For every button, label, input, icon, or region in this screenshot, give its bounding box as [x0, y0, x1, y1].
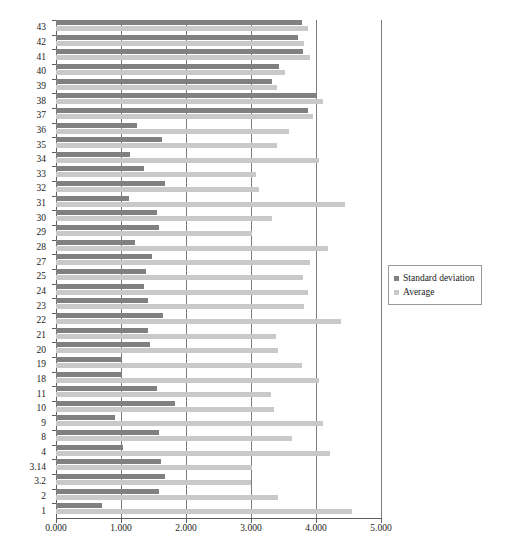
y-axis-tick	[52, 240, 56, 241]
x-axis-tick	[121, 518, 122, 523]
y-axis-tick-label: 9	[41, 418, 46, 428]
bar-standard-deviation	[56, 181, 165, 186]
bar-row	[56, 357, 381, 372]
bar-row	[56, 49, 381, 64]
bar-average	[56, 407, 274, 412]
bar-standard-deviation	[56, 49, 303, 54]
y-axis-tick-label: 36	[37, 125, 47, 135]
bar-row	[56, 503, 381, 518]
bar-chart: 4342414039383736353433323130292827252423…	[0, 0, 513, 558]
bar-average	[56, 187, 259, 192]
x-axis-labels: 0.0001.0002.0003.0004.0005.000	[0, 523, 513, 543]
bar-row	[56, 298, 381, 313]
bar-standard-deviation	[56, 137, 162, 142]
bar-standard-deviation	[56, 210, 157, 215]
bar-standard-deviation	[56, 459, 161, 464]
y-axis-tick	[52, 342, 56, 343]
bar-average	[56, 231, 252, 236]
y-axis-tick	[52, 225, 56, 226]
bar-row	[56, 254, 381, 269]
x-axis-tick-label: 5.000	[370, 523, 391, 533]
y-axis-tick-label: 37	[37, 110, 47, 120]
bar-standard-deviation	[56, 386, 157, 391]
bar-standard-deviation	[56, 430, 159, 435]
bar-standard-deviation	[56, 489, 159, 494]
bar-standard-deviation	[56, 328, 148, 333]
y-axis-tick	[52, 210, 56, 211]
bar-average	[56, 451, 330, 456]
y-axis-tick	[52, 313, 56, 314]
bar-average	[56, 378, 319, 383]
bar-average	[56, 392, 271, 397]
y-axis-tick-label: 3.2	[34, 476, 46, 486]
y-axis-tick	[52, 20, 56, 21]
y-axis-tick	[52, 49, 56, 50]
bar-row	[56, 210, 381, 225]
plot-area	[56, 20, 381, 518]
bar-row	[56, 20, 381, 35]
bar-row	[56, 328, 381, 343]
x-axis-tick	[316, 518, 317, 523]
y-axis-tick-label: 18	[37, 374, 47, 384]
bar-average	[56, 246, 328, 251]
x-axis-tick	[381, 518, 382, 523]
bar-average	[56, 114, 313, 119]
y-axis-tick	[52, 328, 56, 329]
bar-average	[56, 158, 319, 163]
x-axis-tick-label: 2.000	[175, 523, 196, 533]
y-axis-tick	[52, 108, 56, 109]
y-axis-tick-label: 20	[37, 345, 47, 355]
y-axis-tick	[52, 372, 56, 373]
legend-item: Average	[394, 285, 475, 299]
y-axis-tick	[52, 35, 56, 36]
y-axis-tick	[52, 123, 56, 124]
bar-standard-deviation	[56, 108, 308, 113]
bar-average	[56, 99, 323, 104]
bar-row	[56, 152, 381, 167]
y-axis-tick-label: 3.14	[29, 462, 46, 472]
x-axis-tick	[56, 518, 57, 523]
y-axis-tick-label: 4	[41, 447, 46, 457]
bar-standard-deviation	[56, 64, 279, 69]
bar-row	[56, 342, 381, 357]
bar-standard-deviation	[56, 152, 130, 157]
legend: Standard deviation Average	[388, 265, 482, 305]
bar-row	[56, 430, 381, 445]
bar-row	[56, 196, 381, 211]
bar-standard-deviation	[56, 269, 146, 274]
bar-standard-deviation	[56, 298, 148, 303]
y-axis-tick	[52, 357, 56, 358]
bar-row	[56, 35, 381, 50]
x-axis-tick	[251, 518, 252, 523]
bar-average	[56, 436, 292, 441]
y-axis-tick	[52, 415, 56, 416]
y-axis-tick	[52, 269, 56, 270]
x-axis-tick	[186, 518, 187, 523]
bar-row	[56, 64, 381, 79]
bar-standard-deviation	[56, 401, 175, 406]
bar-standard-deviation	[56, 357, 121, 362]
bar-row	[56, 181, 381, 196]
bar-standard-deviation	[56, 342, 150, 347]
y-axis-tick-label: 35	[37, 140, 47, 150]
legend-label-standard-deviation: Standard deviation	[403, 272, 475, 284]
bar-row	[56, 386, 381, 401]
y-axis-tick-label: 25	[37, 271, 47, 281]
legend-swatch-average	[394, 290, 399, 295]
y-axis-tick-label: 42	[37, 37, 47, 47]
y-axis-tick-label: 30	[37, 213, 47, 223]
bar-average	[56, 509, 352, 514]
y-axis-tick	[52, 503, 56, 504]
bar-standard-deviation	[56, 313, 163, 318]
bar-standard-deviation	[56, 240, 135, 245]
y-axis-tick-label: 8	[41, 432, 46, 442]
y-axis-tick-label: 22	[37, 315, 47, 325]
y-axis-tick	[52, 254, 56, 255]
gridline	[381, 20, 382, 518]
bar-average	[56, 363, 302, 368]
legend-swatch-standard-deviation	[394, 276, 399, 281]
bar-standard-deviation	[56, 372, 121, 377]
y-axis-tick-label: 33	[37, 169, 47, 179]
bar-average	[56, 304, 304, 309]
x-axis-tick-label: 4.000	[305, 523, 326, 533]
